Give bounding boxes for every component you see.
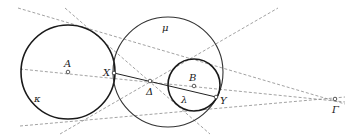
point-b bbox=[192, 84, 196, 88]
circle-mu bbox=[113, 17, 223, 127]
upper-external-tangent bbox=[18, 8, 345, 104]
segment-xy bbox=[114, 73, 216, 97]
label-y: Y bbox=[220, 95, 228, 106]
point-x bbox=[112, 71, 116, 75]
point-delta bbox=[148, 79, 152, 83]
internal-tangent-2 bbox=[60, 8, 278, 134]
label-kappa: κ bbox=[33, 93, 41, 104]
label-mu: μ bbox=[162, 22, 169, 33]
label-delta: Δ bbox=[145, 86, 153, 97]
label-a: A bbox=[63, 58, 71, 69]
label-gamma: Γ bbox=[331, 104, 340, 115]
label-b: B bbox=[188, 72, 196, 83]
point-a bbox=[66, 70, 70, 74]
point-y bbox=[214, 95, 218, 99]
label-lambda: λ bbox=[180, 94, 187, 105]
geometry-diagram: A B X Y Δ Γ κ μ λ bbox=[0, 0, 364, 139]
point-gamma bbox=[333, 97, 337, 101]
label-x: X bbox=[102, 67, 111, 78]
